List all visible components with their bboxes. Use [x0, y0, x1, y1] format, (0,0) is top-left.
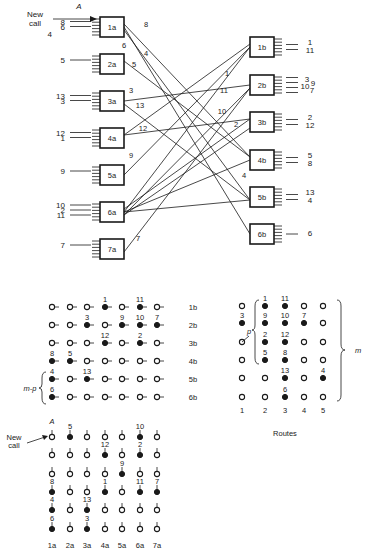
busy-crosspoint — [49, 376, 54, 381]
busy-route — [282, 357, 287, 362]
brace-m — [337, 300, 345, 401]
busy-crosspoint — [137, 489, 142, 494]
switch-label: 3a — [108, 97, 117, 106]
row-label: 4b — [189, 357, 197, 366]
free-crosspoint — [67, 322, 72, 327]
busy-crosspoint — [67, 434, 72, 439]
free-crosspoint — [102, 507, 107, 512]
call-number: 10 — [136, 422, 144, 431]
output-label: 7 — [310, 86, 315, 95]
switch-label: 1a — [108, 23, 117, 32]
call-number: 8 — [50, 349, 54, 358]
row-label: 5b — [189, 375, 197, 384]
busy-crosspoint — [102, 340, 107, 345]
call-number: 6 — [50, 385, 54, 394]
input-label: 7 — [61, 241, 66, 250]
output-label: 8 — [308, 159, 313, 168]
switch-label: 6a — [108, 208, 117, 217]
busy-crosspoint — [84, 322, 89, 327]
free-crosspoint — [102, 322, 107, 327]
busy-crosspoint — [49, 489, 54, 494]
free-route — [320, 339, 325, 344]
free-crosspoint — [119, 358, 124, 363]
free-route — [239, 375, 244, 380]
busy-crosspoint — [137, 304, 142, 309]
free-crosspoint — [102, 526, 107, 531]
interstage-link — [124, 88, 250, 252]
free-crosspoint — [119, 507, 124, 512]
input-label: 9 — [61, 167, 66, 176]
link-label: 12 — [139, 124, 147, 133]
call-number: 3 — [85, 514, 89, 523]
interstage-link — [124, 85, 250, 101]
call-number: 2 — [138, 440, 142, 449]
link-label: 10 — [218, 107, 226, 116]
call-number: 13 — [83, 495, 91, 504]
switch-label: 5a — [108, 171, 117, 180]
free-crosspoint — [119, 376, 124, 381]
call-number: 4 — [50, 367, 54, 376]
busy-route — [282, 339, 287, 344]
route-number: 3 — [283, 406, 287, 415]
call-number: 1 — [103, 477, 107, 486]
routes-title: Routes — [273, 429, 297, 438]
input-label: 6 — [61, 23, 66, 32]
free-crosspoint — [102, 434, 107, 439]
free-crosspoint — [137, 394, 142, 399]
new-call-label: call — [8, 441, 20, 450]
free-crosspoint — [154, 471, 159, 476]
call-number: 11 — [281, 294, 289, 303]
free-crosspoint — [67, 394, 72, 399]
busy-route — [262, 303, 267, 308]
free-crosspoint — [119, 340, 124, 345]
busy-crosspoint — [67, 358, 72, 363]
free-crosspoint — [137, 471, 142, 476]
free-crosspoint — [102, 471, 107, 476]
column-label: 6a — [136, 541, 145, 550]
call-number: 13 — [83, 367, 91, 376]
switch-label: 6b — [258, 230, 266, 239]
free-crosspoint — [154, 526, 159, 531]
column-label: 5a — [118, 541, 127, 550]
free-crosspoint — [84, 489, 89, 494]
arrow-head-icon — [90, 16, 97, 22]
route-number: 5 — [321, 406, 325, 415]
free-crosspoint — [154, 304, 159, 309]
call-number: 1 — [263, 294, 267, 303]
free-route — [301, 303, 306, 308]
input-label: 1 — [61, 134, 66, 143]
free-crosspoint — [84, 394, 89, 399]
switch-label: 4b — [258, 156, 266, 165]
free-route — [239, 357, 244, 362]
new-call-arrow — [27, 437, 45, 443]
switch-label: 2a — [108, 60, 117, 69]
call-number: 5 — [68, 422, 72, 431]
call-number: 8 — [283, 348, 287, 357]
free-crosspoint — [119, 452, 124, 457]
busy-route — [239, 320, 244, 325]
free-crosspoint — [49, 452, 54, 457]
link-label: 9 — [129, 151, 133, 160]
free-crosspoint — [137, 376, 142, 381]
free-crosspoint — [154, 507, 159, 512]
link-label: 11 — [220, 86, 228, 95]
free-crosspoint — [102, 394, 107, 399]
busy-crosspoint — [102, 489, 107, 494]
busy-crosspoint — [154, 322, 159, 327]
call-number: 5 — [263, 348, 267, 357]
column-label: 3a — [83, 541, 92, 550]
busy-route — [282, 394, 287, 399]
call-number: 10 — [136, 313, 144, 322]
busy-route — [262, 320, 267, 325]
route-number: 2 — [263, 406, 267, 415]
call-number: 2 — [263, 330, 267, 339]
input-label: 4 — [48, 30, 53, 39]
free-crosspoint — [137, 507, 142, 512]
brace-label: m-p — [24, 384, 37, 393]
busy-route — [282, 375, 287, 380]
row-label: 6b — [189, 393, 197, 402]
free-route — [301, 339, 306, 344]
free-crosspoint — [67, 526, 72, 531]
arrival-label-A: A — [75, 2, 81, 11]
output-label: 10 — [301, 82, 310, 91]
